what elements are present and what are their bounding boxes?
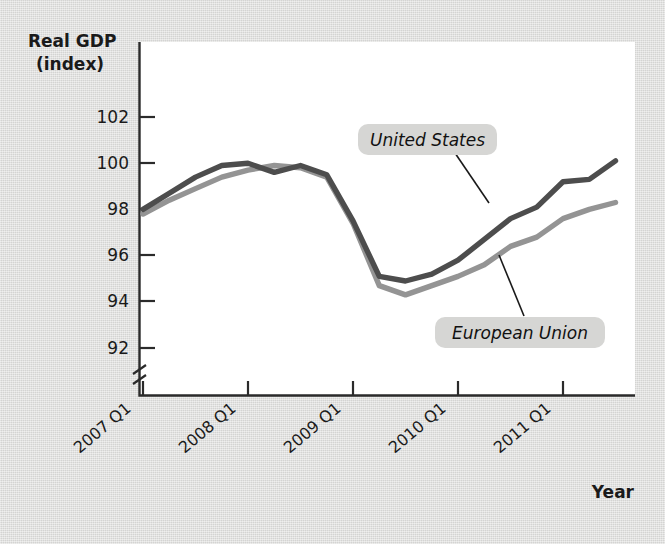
x-tick-labels: 2007 Q1 2008 Q1 2009 Q1 2010 Q1 2011 Q1 [70, 399, 555, 458]
y-tick-label-92: 92 [107, 338, 129, 358]
y-tick-labels: 102 100 98 96 94 92 [97, 107, 129, 358]
x-tick-label-2007q1: 2007 Q1 [70, 399, 135, 458]
y-axis-title-line2: (index) [36, 54, 104, 74]
callout-european-union: European Union [435, 317, 605, 348]
x-axis-title: Year [591, 482, 635, 502]
y-tick-label-94: 94 [107, 291, 129, 311]
y-tick-label-100: 100 [97, 153, 129, 173]
x-tick-label-2010q1: 2010 Q1 [385, 399, 450, 458]
callout-united-states: United States [358, 124, 497, 155]
gdp-comparison-chart: 102 100 98 96 94 92 Real GDP (index) 200… [0, 0, 665, 544]
series-label-european-union: European Union [452, 323, 588, 343]
y-tick-label-96: 96 [107, 245, 129, 265]
y-axis-title-line1: Real GDP [28, 31, 116, 51]
x-tick-label-2011q1: 2011 Q1 [490, 399, 555, 458]
y-tick-label-98: 98 [107, 199, 129, 219]
series-label-united-states: United States [370, 130, 485, 150]
y-tick-label-102: 102 [97, 107, 129, 127]
y-axis-title: Real GDP (index) [28, 31, 116, 74]
chart-svg: 102 100 98 96 94 92 Real GDP (index) 200… [0, 0, 665, 544]
x-tick-label-2008q1: 2008 Q1 [175, 399, 240, 458]
x-tick-label-2009q1: 2009 Q1 [280, 399, 345, 458]
